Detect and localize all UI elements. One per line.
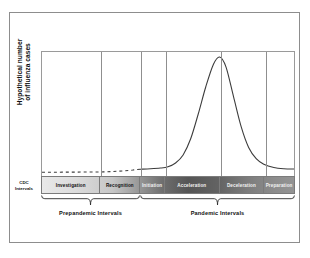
epidemic-curve <box>42 52 294 176</box>
interval-cell-investigation[interactable]: Investigation <box>42 177 100 193</box>
interval-cell-label: Acceleration <box>177 183 206 188</box>
interval-cell-acceleration[interactable]: Acceleration <box>165 177 220 193</box>
group-labels: Prepandemic IntervalsPandemic Intervals <box>41 210 295 222</box>
group-braces <box>41 194 295 210</box>
interval-cell-label: Initiation <box>142 183 162 188</box>
interval-cell-label: Investigation <box>56 183 86 188</box>
y-axis-title-line1: Hypothetical number <box>16 39 24 106</box>
cdc-intervals-label: CDC Intervals <box>8 177 40 194</box>
prepandemic-curve-dashed <box>42 169 140 172</box>
group-label-1: Prepandemic Intervals <box>41 210 140 216</box>
interval-divider-4 <box>221 52 222 176</box>
interval-cell-recognition[interactable]: Recognition <box>100 177 140 193</box>
pandemic-intervals-figure: Hypothetical number of influenza cases C… <box>0 0 310 258</box>
pandemic-curve-solid <box>140 57 294 169</box>
brace-2 <box>141 196 295 206</box>
interval-cell-initiation[interactable]: Initiation <box>140 177 165 193</box>
interval-cell-label: Recognition <box>106 183 134 188</box>
y-axis-title-line2: of influenza cases <box>24 43 32 101</box>
y-axis-title: Hypothetical number of influenza cases <box>12 7 36 137</box>
interval-divider-3 <box>166 52 167 176</box>
interval-band: InvestigationRecognitionInitiationAccele… <box>41 176 295 194</box>
interval-divider-2 <box>141 52 142 176</box>
interval-divider-1 <box>101 52 102 176</box>
interval-cell-deceleration[interactable]: Deceleration <box>220 177 265 193</box>
brace-1 <box>42 196 140 206</box>
interval-divider-5 <box>266 52 267 176</box>
interval-cell-label: Deceleration <box>227 183 256 188</box>
plot-area <box>41 51 295 176</box>
interval-cell-preparation[interactable]: Preparation <box>264 177 294 193</box>
group-label-2: Pandemic Intervals <box>140 210 295 216</box>
cdc-intervals-label-line2: Intervals <box>15 186 33 192</box>
interval-cell-label: Preparation <box>266 183 293 188</box>
